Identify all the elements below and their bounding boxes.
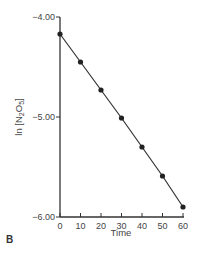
x-tick-label: 10: [75, 221, 85, 231]
data-point-marker: [139, 144, 144, 149]
chart: −4.00−5.00−6.000102030405060 Time ln [N2…: [0, 0, 200, 262]
data-series: [57, 31, 185, 209]
x-tick-label: 60: [178, 221, 188, 231]
data-point-marker: [160, 173, 165, 178]
data-point-marker: [119, 115, 124, 120]
data-point-marker: [57, 31, 62, 36]
y-tick-label: −4.00: [32, 12, 55, 22]
y-axis-title: ln [N2O5]: [13, 98, 25, 135]
data-point-marker: [98, 87, 103, 92]
data-point-marker: [180, 204, 185, 209]
x-tick-label: 40: [137, 221, 147, 231]
x-tick-label: 50: [157, 221, 167, 231]
data-point-marker: [78, 59, 83, 64]
x-tick-label: 20: [96, 221, 106, 231]
axes: −4.00−5.00−6.000102030405060: [32, 12, 188, 231]
x-axis-title: Time: [111, 227, 132, 238]
y-tick-label: −6.00: [32, 212, 55, 222]
x-tick-label: 0: [57, 221, 62, 231]
panel-label: B: [6, 234, 13, 245]
y-tick-label: −5.00: [32, 112, 55, 122]
